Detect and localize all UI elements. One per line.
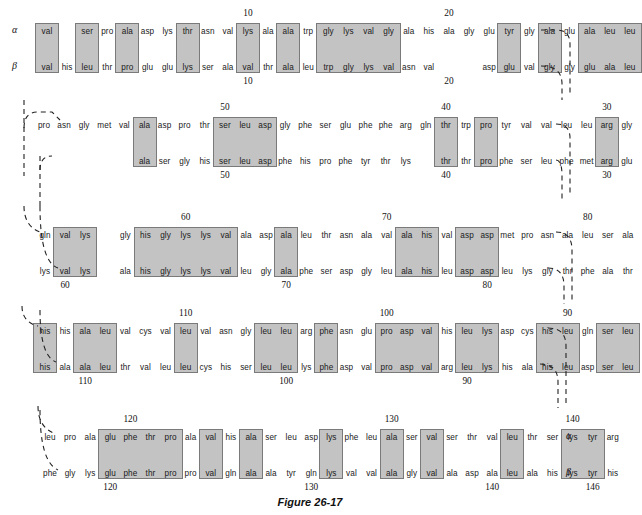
residue: asn	[399, 62, 419, 73]
residue: ala	[75, 362, 95, 373]
residue: leu	[537, 156, 557, 167]
residue: phe	[296, 266, 316, 277]
residue: pro	[161, 468, 181, 479]
residue: asn	[216, 326, 236, 337]
residue: lys	[75, 266, 95, 277]
residue: thr	[115, 362, 135, 373]
residue: phe	[295, 120, 315, 131]
residue: leu	[235, 156, 255, 167]
residue: lys	[477, 362, 497, 373]
residue: gly	[540, 62, 560, 73]
residue: asp	[397, 362, 417, 373]
residue: val	[516, 120, 536, 131]
residue: val	[519, 62, 539, 73]
residue: val	[156, 326, 176, 337]
residue: lys	[158, 26, 178, 37]
residue: asp	[255, 120, 275, 131]
chain-label-alpha: α	[12, 24, 26, 38]
residue: leu	[620, 62, 640, 73]
residue: leu	[95, 362, 115, 373]
residue: ser	[198, 62, 218, 73]
residue: ala	[55, 362, 75, 373]
residue: tyr	[356, 156, 376, 167]
residue: leu	[457, 362, 477, 373]
residue: leu	[298, 62, 318, 73]
residue: lys	[321, 432, 341, 443]
residue: ala	[382, 468, 402, 479]
residue: his	[295, 156, 315, 167]
number-110-alpha: 110	[174, 308, 198, 320]
residue: thr	[462, 432, 482, 443]
residue: pro	[117, 62, 137, 73]
residue: ser	[598, 362, 618, 373]
residue: leu	[618, 362, 638, 373]
chain-label-beta-end: β	[566, 466, 580, 480]
residue: phe	[557, 156, 577, 167]
residue: asn	[54, 120, 74, 131]
residue: phe	[356, 120, 376, 131]
residue: phe	[496, 156, 516, 167]
residue: thr	[376, 156, 396, 167]
number-70-beta: 70	[274, 280, 298, 292]
number-10-beta: 10	[236, 76, 260, 88]
residue: ala	[397, 230, 417, 241]
residue: tyr	[496, 120, 516, 131]
residue: val	[37, 62, 57, 73]
residue: lys	[75, 230, 95, 241]
residue: ala	[117, 26, 137, 37]
residue: lys	[396, 156, 416, 167]
residue: asp	[138, 26, 158, 37]
residue: glu	[138, 62, 158, 73]
residue: val	[359, 26, 379, 37]
residue: cys	[517, 326, 537, 337]
residue: ala	[598, 266, 618, 277]
residue: lys	[339, 26, 359, 37]
residue: gly	[379, 26, 399, 37]
residue: pro	[377, 362, 397, 373]
residue: leu	[77, 62, 97, 73]
residue: pro	[97, 26, 117, 37]
residue: ser	[543, 432, 563, 443]
number-130-alpha: 130	[380, 414, 404, 426]
residue: phe	[120, 432, 140, 443]
residue: gly	[339, 62, 359, 73]
residue: val	[482, 432, 502, 443]
residue: lys	[296, 362, 316, 373]
figure-caption: Figure 26-17	[240, 496, 380, 512]
residue: ala	[558, 230, 578, 241]
residue: pro	[377, 326, 397, 337]
residue: asn	[538, 230, 558, 241]
residue: gly	[357, 266, 377, 277]
number-80-alpha: 80	[576, 212, 600, 224]
residue: gly	[275, 120, 295, 131]
number-80-beta: 80	[475, 280, 499, 292]
residue: tyr	[281, 468, 301, 479]
residue: thr	[558, 266, 578, 277]
residue: phe	[342, 432, 362, 443]
residue: leu	[235, 120, 255, 131]
residue: phe	[578, 266, 598, 277]
residue: leu	[600, 26, 620, 37]
residue: ala	[278, 62, 298, 73]
residue: ala	[75, 326, 95, 337]
residue: arg	[437, 362, 457, 373]
residue: ser	[516, 156, 536, 167]
residue: thr	[141, 468, 161, 479]
residue: phe	[376, 120, 396, 131]
residue: val	[342, 468, 362, 479]
residue: leu	[577, 120, 597, 131]
residue: his	[543, 468, 563, 479]
residue: glu	[499, 62, 519, 73]
residue: val	[379, 62, 399, 73]
residue: phe	[336, 156, 356, 167]
residue: leu	[558, 362, 578, 373]
residue: glu	[479, 26, 499, 37]
residue: lys	[238, 26, 258, 37]
residue: leu	[256, 362, 276, 373]
residue: val	[422, 432, 442, 443]
residue: lys	[176, 266, 196, 277]
residue: thr	[436, 156, 456, 167]
residue: leu	[256, 326, 276, 337]
residue: ala	[397, 266, 417, 277]
residue: ala	[540, 26, 560, 37]
